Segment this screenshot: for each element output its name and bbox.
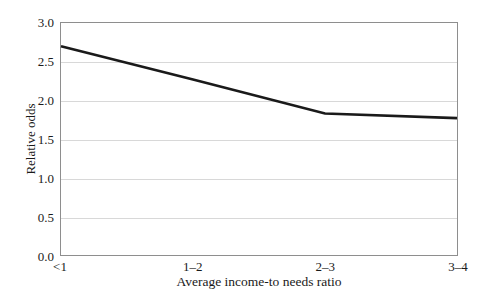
y-axis-tick-label: 2.0 [28, 94, 54, 107]
y-axis-tick-label: 1.0 [28, 172, 54, 185]
data-series-line [61, 23, 457, 255]
x-axis-tick-label: 1–2 [163, 259, 223, 275]
y-axis-tick-labels: 0.00.51.01.52.02.53.0 [26, 0, 54, 295]
y-axis-tick-label: 3.0 [28, 16, 54, 29]
x-axis-tick-label: 2–3 [295, 259, 355, 275]
plot-area [60, 22, 458, 256]
x-axis-tick-label: <1 [30, 259, 90, 275]
x-axis-tick-label: 3–4 [428, 259, 485, 275]
y-axis-tick-label: 0.5 [28, 211, 54, 224]
chart-figure: Relative odds 0.00.51.01.52.02.53.0 <11–… [0, 0, 485, 295]
y-axis-tick-label: 2.5 [28, 55, 54, 68]
y-axis-tick-label: 1.5 [28, 133, 54, 146]
x-axis-title: Average income-to needs ratio [60, 274, 458, 290]
relative-odds-line [61, 46, 457, 118]
